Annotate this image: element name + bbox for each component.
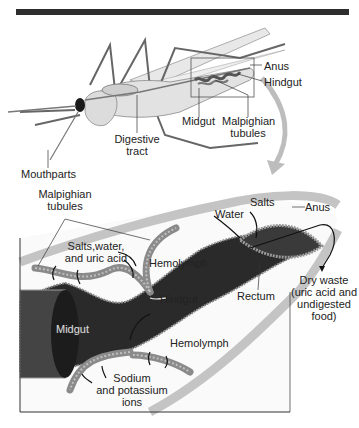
label-midgut-bottom: Midgut	[56, 323, 89, 335]
label-hindgut-bottom: Hindgut	[160, 293, 198, 305]
insect-illustration	[0, 0, 359, 428]
label-hemolymph-bottom: Hemolymph	[170, 337, 229, 349]
label-mouthparts: Mouthparts	[21, 168, 76, 180]
label-salts: Salts	[250, 196, 274, 208]
label-rectum: Rectum	[237, 290, 275, 302]
label-sodium-potassium: Sodium and potassium ions	[96, 372, 168, 408]
label-midgut-top: Midgut	[182, 115, 215, 127]
label-anus-bottom: Anus	[305, 201, 330, 213]
label-hemolymph-top: Hemolymph	[149, 257, 208, 269]
label-salts-water-uric: Salts,water, and uric acid	[60, 240, 132, 264]
label-malpighian-bottom: Malpighian tubules	[38, 188, 92, 212]
label-digestive-tract: Digestive tract	[112, 133, 162, 157]
label-dry-waste: Dry waste (uric acid and undigested food…	[290, 274, 358, 322]
label-water: Water	[215, 208, 244, 220]
label-hindgut-top: Hindgut	[264, 76, 302, 88]
label-anus-top: Anus	[264, 60, 289, 72]
label-malpighian-top: Malpighian tubules	[222, 115, 274, 139]
